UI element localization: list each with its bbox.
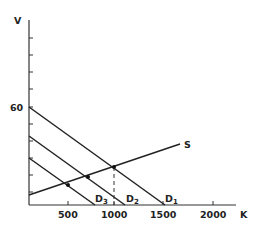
equilibrium-point-d2	[86, 175, 90, 179]
equilibrium-point-d1	[112, 165, 116, 169]
d2-label: D2	[126, 193, 139, 206]
x-tick-label-500: 500	[58, 209, 78, 220]
y-axis-label: V	[14, 15, 22, 26]
x-tick-label-1000: 1000	[101, 209, 128, 220]
equilibrium-point-d3	[66, 183, 70, 187]
demand-line-d3	[29, 158, 95, 205]
d3-label: D3	[95, 193, 108, 206]
d1-label: D1	[165, 193, 178, 206]
x-axis-label: K	[240, 209, 248, 220]
supply-label: S	[184, 139, 191, 150]
supply-demand-chart: V 60 500 1000 1500 2000 K S D1 D2 D3	[0, 0, 270, 233]
demand-line-d2	[29, 136, 125, 205]
x-tick-label-2000: 2000	[200, 209, 227, 220]
y-tick-label-60: 60	[10, 102, 24, 113]
x-tick-label-1500: 1500	[150, 209, 177, 220]
